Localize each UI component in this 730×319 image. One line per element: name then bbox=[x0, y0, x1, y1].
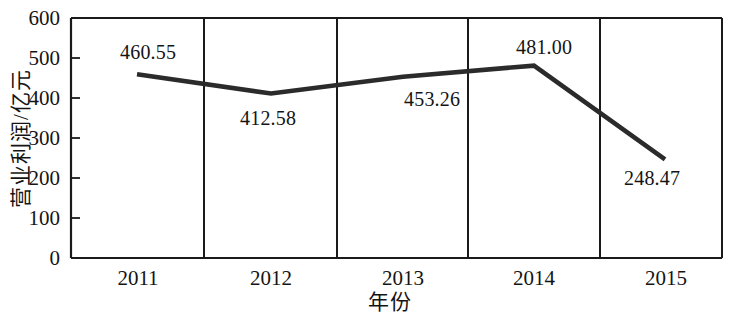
y-tick-label-400: 400 bbox=[0, 88, 60, 109]
data-label-2012: 412.58 bbox=[240, 108, 296, 128]
data-label-2013: 453.26 bbox=[404, 89, 460, 109]
data-label-2011: 460.55 bbox=[120, 42, 176, 62]
x-axis-title: 年份 bbox=[330, 292, 450, 313]
x-tick-label-2015: 2015 bbox=[626, 268, 706, 289]
y-tick-label-100: 100 bbox=[0, 208, 60, 229]
y-tick-label-500: 500 bbox=[0, 48, 60, 69]
line-chart: 营业利润/亿元 600 500 400 300 200 100 0 2011 2… bbox=[0, 0, 730, 319]
y-tick-label-0: 0 bbox=[0, 248, 60, 269]
y-tick-label-200: 200 bbox=[0, 168, 60, 189]
x-tick-label-2011: 2011 bbox=[98, 268, 178, 289]
x-tick-label-2014: 2014 bbox=[494, 268, 574, 289]
data-label-2014: 481.00 bbox=[516, 37, 572, 57]
y-tick-label-600: 600 bbox=[0, 8, 60, 29]
data-label-2015: 248.47 bbox=[624, 168, 680, 188]
x-tick-label-2013: 2013 bbox=[363, 268, 443, 289]
y-tick-label-300: 300 bbox=[0, 128, 60, 149]
data-series-line bbox=[137, 66, 665, 160]
x-tick-label-2012: 2012 bbox=[231, 268, 311, 289]
